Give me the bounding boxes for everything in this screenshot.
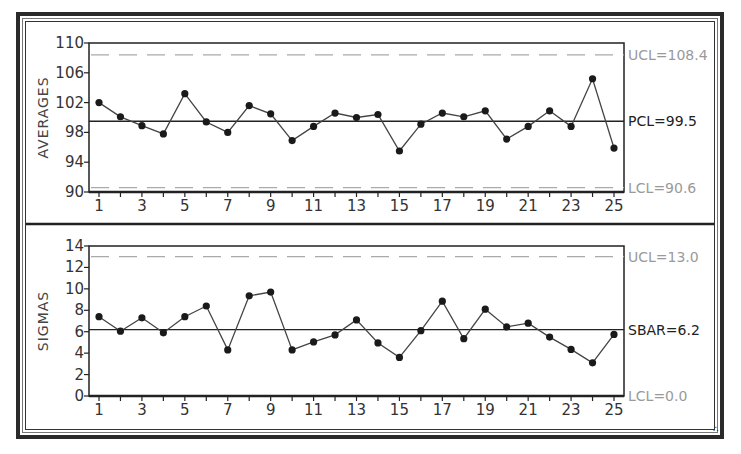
data-point bbox=[567, 123, 574, 130]
data-point bbox=[374, 339, 381, 346]
x-tick-label: 11 bbox=[304, 197, 323, 215]
lcl-label: LCL=90.6 bbox=[628, 180, 696, 196]
resize-grip-icon[interactable]: ∴ bbox=[713, 424, 719, 434]
x-tick-label: 23 bbox=[562, 197, 581, 215]
y-tick-label: 98 bbox=[65, 123, 84, 141]
x-tick-label: 19 bbox=[476, 197, 495, 215]
x-tick-label: 15 bbox=[390, 401, 409, 419]
x-tick-label: 19 bbox=[476, 401, 495, 419]
x-tick-label: 21 bbox=[519, 197, 538, 215]
data-point bbox=[267, 110, 274, 117]
data-point bbox=[353, 114, 360, 121]
x-tick-label: 1 bbox=[94, 401, 104, 419]
x-tick-label: 9 bbox=[266, 401, 276, 419]
x-tick-label: 7 bbox=[223, 197, 233, 215]
y-tick-label: 4 bbox=[74, 344, 84, 362]
y-tick-label: 14 bbox=[65, 237, 84, 255]
averages-axis-title: AVERAGES bbox=[35, 76, 51, 158]
data-point bbox=[525, 320, 532, 327]
data-point bbox=[460, 335, 467, 342]
data-point bbox=[310, 338, 317, 345]
data-point bbox=[460, 113, 467, 120]
data-point bbox=[482, 306, 489, 313]
y-tick-label: 2 bbox=[74, 366, 84, 384]
y-tick-label: 106 bbox=[55, 64, 84, 82]
data-point bbox=[310, 123, 317, 130]
y-tick-label: 6 bbox=[74, 323, 84, 341]
x-tick-label: 13 bbox=[347, 197, 366, 215]
data-point bbox=[546, 333, 553, 340]
y-tick-label: 102 bbox=[55, 94, 84, 112]
data-point bbox=[289, 346, 296, 353]
x-tick-label: 25 bbox=[604, 401, 623, 419]
x-tick-label: 17 bbox=[433, 197, 452, 215]
data-point bbox=[610, 331, 617, 338]
data-point bbox=[160, 329, 167, 336]
data-point bbox=[589, 75, 596, 82]
x-tick-label: 21 bbox=[519, 401, 538, 419]
x-tick-label: 13 bbox=[347, 401, 366, 419]
data-point bbox=[396, 147, 403, 154]
x-tick-label: 5 bbox=[180, 401, 190, 419]
ucl-label: UCL=13.0 bbox=[628, 249, 699, 265]
data-point bbox=[246, 102, 253, 109]
data-point bbox=[567, 346, 574, 353]
y-tick-label: 10 bbox=[65, 280, 84, 298]
data-point bbox=[95, 99, 102, 106]
sigmas-panel: 02468101214135791113151719212325SIGMASUC… bbox=[35, 237, 700, 419]
x-tick-label: 25 bbox=[604, 197, 623, 215]
data-point bbox=[95, 313, 102, 320]
lcl-label: LCL=0.0 bbox=[628, 388, 687, 404]
data-point bbox=[138, 314, 145, 321]
data-point bbox=[417, 327, 424, 334]
data-point bbox=[482, 107, 489, 114]
data-point bbox=[439, 298, 446, 305]
data-point bbox=[267, 288, 274, 295]
data-point bbox=[181, 313, 188, 320]
x-tick-label: 7 bbox=[223, 401, 233, 419]
x-tick-label: 17 bbox=[433, 401, 452, 419]
data-point bbox=[117, 328, 124, 335]
x-tick-label: 23 bbox=[562, 401, 581, 419]
control-chart: 909498102106110135791113151719212325AVER… bbox=[0, 0, 741, 454]
x-tick-label: 15 bbox=[390, 197, 409, 215]
data-point bbox=[503, 136, 510, 143]
averages-panel: 909498102106110135791113151719212325AVER… bbox=[35, 34, 708, 215]
data-point bbox=[610, 144, 617, 151]
x-tick-label: 1 bbox=[94, 197, 104, 215]
data-point bbox=[289, 137, 296, 144]
y-tick-label: 110 bbox=[55, 34, 84, 52]
data-point bbox=[417, 121, 424, 128]
data-point bbox=[353, 316, 360, 323]
data-point bbox=[331, 331, 338, 338]
data-point bbox=[439, 109, 446, 116]
data-point bbox=[224, 346, 231, 353]
x-tick-label: 9 bbox=[266, 197, 276, 215]
data-point bbox=[246, 292, 253, 299]
data-point bbox=[224, 129, 231, 136]
y-tick-label: 0 bbox=[74, 387, 84, 405]
ucl-label: UCL=108.4 bbox=[628, 47, 708, 63]
data-point bbox=[546, 107, 553, 114]
data-point bbox=[117, 113, 124, 120]
data-point bbox=[396, 354, 403, 361]
data-point bbox=[138, 122, 145, 129]
sigmas-axis-title: SIGMAS bbox=[35, 291, 51, 351]
y-tick-label: 8 bbox=[74, 301, 84, 319]
data-point bbox=[203, 118, 210, 125]
data-point bbox=[203, 302, 210, 309]
x-tick-label: 11 bbox=[304, 401, 323, 419]
y-tick-label: 90 bbox=[65, 183, 84, 201]
data-point bbox=[331, 109, 338, 116]
center-label: PCL=99.5 bbox=[628, 113, 697, 129]
data-point bbox=[160, 130, 167, 137]
x-tick-label: 3 bbox=[137, 401, 147, 419]
y-tick-label: 94 bbox=[65, 153, 84, 171]
center-label: SBAR=6.2 bbox=[628, 322, 700, 338]
data-point bbox=[589, 359, 596, 366]
data-point bbox=[181, 90, 188, 97]
data-point bbox=[374, 111, 381, 118]
y-tick-label: 12 bbox=[65, 258, 84, 276]
x-tick-label: 3 bbox=[137, 197, 147, 215]
data-point bbox=[525, 123, 532, 130]
